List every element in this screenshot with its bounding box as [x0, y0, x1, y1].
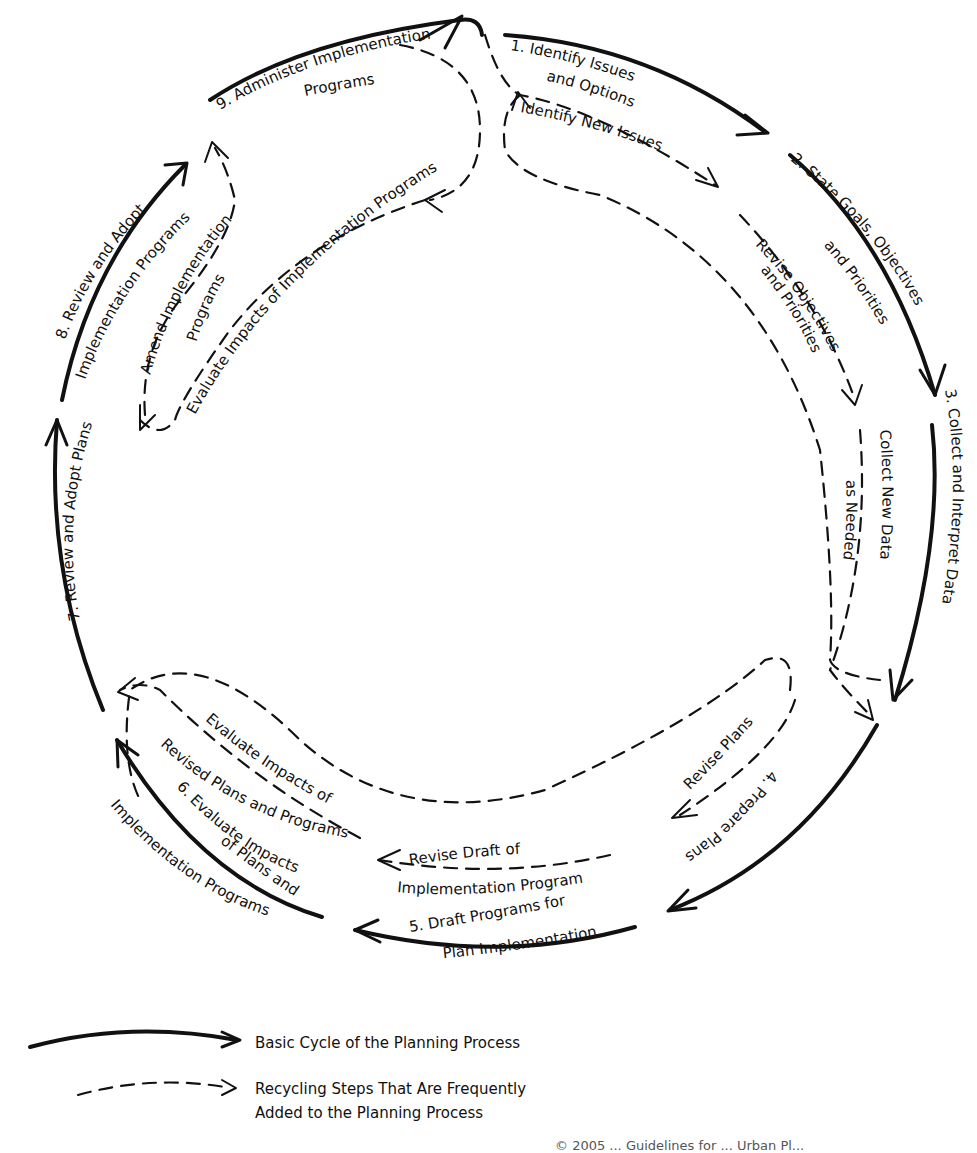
step-9-label-line2: Programs — [302, 70, 376, 100]
source-footer: © 2005 ... Guidelines for ... Urban Pl..… — [555, 1138, 804, 1153]
legend-solid-arrow — [30, 1031, 237, 1047]
collect-new-data-label: Collect New Data — [876, 429, 896, 560]
step-9-label: 9. Administer Implementation — [213, 25, 432, 114]
planning-process-diagram: 1. Identify Issues and Options 2. State … — [0, 0, 977, 1153]
step-7-label: 7. Review and Adopt Plans — [59, 419, 96, 622]
step-5-label-line2: Plan Implementation — [442, 922, 598, 962]
collect-new-data-label-line2: as Needed — [839, 479, 861, 561]
revise-plans-label: Revise Plans — [680, 712, 757, 793]
arrow-step4 — [670, 725, 877, 910]
step-labels: 1. Identify Issues and Options 2. State … — [52, 25, 967, 963]
arrowhead-icon — [222, 1080, 236, 1095]
identify-new-issues-label: Identify New Issues — [519, 98, 665, 154]
revise-draft-label: Revise Draft of — [408, 840, 522, 869]
legend-dashed-arrow — [78, 1083, 225, 1096]
arrow-step3 — [895, 425, 935, 700]
step-3-label: 3. Collect and Interpret Data — [938, 388, 967, 606]
legend-dashed-label-line2: Added to the Planning Process — [255, 1101, 483, 1126]
basic-cycle — [46, 16, 945, 947]
legend-solid-label: Basic Cycle of the Planning Process — [255, 1031, 520, 1056]
recycling-labels: Identify New Issues Revise Objectives an… — [137, 98, 897, 898]
legend-symbols — [30, 1031, 240, 1095]
legend-dashed-label: Recycling Steps That Are Frequently — [255, 1077, 526, 1102]
